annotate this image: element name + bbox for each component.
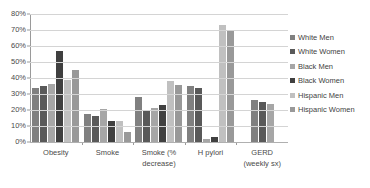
grid-line — [30, 46, 288, 47]
legend-item-label: Black Men — [298, 63, 333, 71]
legend-item[interactable]: Hispanic Men — [290, 88, 368, 103]
legend-swatch-icon — [290, 78, 295, 83]
grid-line — [30, 142, 288, 143]
legend-swatch-icon — [290, 64, 295, 69]
legend-swatch-icon — [290, 49, 295, 54]
y-axis-tick-label: 20% — [11, 106, 26, 114]
legend-swatch-icon — [290, 35, 295, 40]
y-axis-tick-label: 50% — [11, 58, 26, 66]
grid-line — [30, 94, 288, 95]
legend-swatch-icon — [290, 93, 295, 98]
grid-line — [30, 126, 288, 127]
legend-item-label: White Women — [298, 48, 345, 56]
bar[interactable] — [124, 132, 131, 142]
x-axis-labels: ObesitySmokeSmoke (%decrease)H pyloriGER… — [30, 147, 288, 169]
y-axis-tick-label: 40% — [11, 74, 26, 82]
bar[interactable] — [195, 88, 202, 142]
grid-line — [30, 30, 288, 31]
y-axis-tick-label: 30% — [11, 90, 26, 98]
y-axis-tick — [27, 30, 30, 31]
bar-chart: 80%70%60%50%40%30%20%10%0% ObesitySmokeS… — [0, 0, 370, 188]
y-axis-tick — [27, 78, 30, 79]
legend-item[interactable]: Black Men — [290, 59, 368, 74]
legend-item[interactable]: White Women — [290, 45, 368, 60]
x-axis-category-label: Smoke (%decrease) — [133, 147, 185, 169]
y-axis-tick — [27, 110, 30, 111]
grid-line — [30, 62, 288, 63]
legend-item[interactable]: Hispanic Women — [290, 103, 368, 118]
y-axis-tick-label: 80% — [11, 10, 26, 18]
bar[interactable] — [64, 80, 71, 142]
x-axis-category-label: Obesity — [30, 147, 82, 169]
legend-swatch-icon — [290, 107, 295, 112]
y-axis-tick — [27, 62, 30, 63]
bar[interactable] — [72, 70, 79, 142]
bar[interactable] — [32, 88, 39, 142]
bar[interactable] — [219, 25, 226, 142]
grid-line — [30, 78, 288, 79]
bar[interactable] — [135, 97, 142, 142]
bar[interactable] — [116, 121, 123, 142]
y-axis-tick-label: 70% — [11, 26, 26, 34]
legend-item-label: Hispanic Women — [298, 106, 355, 114]
y-axis-tick — [27, 94, 30, 95]
bar[interactable] — [108, 121, 115, 142]
legend-item[interactable]: White Men — [290, 30, 368, 45]
x-axis-category-label: Smoke — [82, 147, 134, 169]
bar[interactable] — [251, 100, 258, 142]
legend-item-label: White Men — [298, 34, 334, 42]
y-axis-tick-label: 60% — [11, 42, 26, 50]
bar[interactable] — [259, 102, 266, 142]
y-axis-tick — [27, 126, 30, 127]
y-axis-tick — [27, 46, 30, 47]
bar[interactable] — [92, 116, 99, 142]
y-axis-tick — [27, 142, 30, 143]
bar[interactable] — [167, 81, 174, 142]
bar[interactable] — [151, 108, 158, 142]
grid-line — [30, 14, 288, 15]
bar[interactable] — [56, 51, 63, 142]
x-axis-category-label: GERD(weekly sx) — [236, 147, 288, 169]
chart-legend: White MenWhite WomenBlack MenBlack Women… — [290, 30, 368, 117]
bar[interactable] — [84, 114, 91, 142]
legend-item-label: Hispanic Men — [298, 92, 343, 100]
legend-item-label: Black Women — [298, 77, 344, 85]
plot-area: 80%70%60%50%40%30%20%10%0% — [30, 14, 288, 142]
y-axis-tick — [27, 14, 30, 15]
y-axis-tick-label: 10% — [11, 122, 26, 130]
legend-item[interactable]: Black Women — [290, 74, 368, 89]
x-axis-category-label: H pylori — [185, 147, 237, 169]
grid-line — [30, 110, 288, 111]
y-axis-tick-label: 0% — [15, 138, 26, 146]
